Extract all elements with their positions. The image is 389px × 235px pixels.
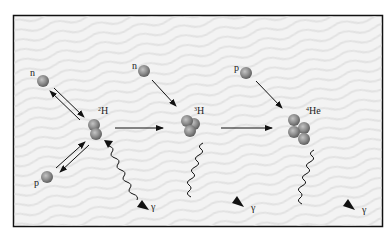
gamma-label-3: γ	[361, 204, 367, 215]
deuteron-neutron	[90, 128, 102, 140]
neutron-label: n	[30, 67, 35, 78]
proton-particle	[41, 171, 53, 183]
proton-label: p	[34, 177, 39, 188]
gamma-label-1: γ	[150, 201, 156, 212]
triton-nucleon-3	[184, 125, 196, 137]
neutron-particle	[37, 75, 49, 87]
helium-nucleon-4	[298, 133, 310, 145]
neutron-label-2: n	[132, 60, 137, 71]
neutron-particle-2	[138, 65, 150, 77]
gamma-label-2: γ	[250, 202, 256, 213]
proton-particle-3	[240, 67, 252, 79]
helium-label: 4He	[306, 105, 321, 116]
helium-nucleon-3	[288, 126, 300, 138]
proton-label-3: p	[234, 62, 239, 73]
helium-nucleon-2	[288, 114, 300, 126]
fusion-diagram: n 2H p γ n 3H γ p	[0, 0, 389, 235]
